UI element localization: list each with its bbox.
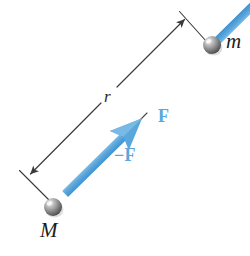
force-negative-F-label: −F: [114, 146, 136, 164]
force-vector-F: [197, 0, 250, 61]
mass-m-body: [203, 36, 221, 54]
separation-dimension-group: [20, 12, 207, 201]
extension-line-lower: [20, 171, 50, 201]
extension-line-upper: [180, 12, 207, 42]
force-vector-negative-F: [56, 109, 152, 204]
mass-m-label: m: [226, 31, 241, 52]
dimension-line-upper-segment: [117, 20, 185, 88]
gravitation-force-diagram: m M r F −F: [0, 0, 250, 256]
force-F-label: F: [158, 107, 169, 125]
diagram-canvas: [0, 0, 250, 256]
mass-M-sphere: [44, 198, 64, 218]
separation-label: r: [104, 88, 111, 105]
mass-M-body: [44, 198, 62, 216]
mass-M-label: M: [40, 220, 58, 241]
